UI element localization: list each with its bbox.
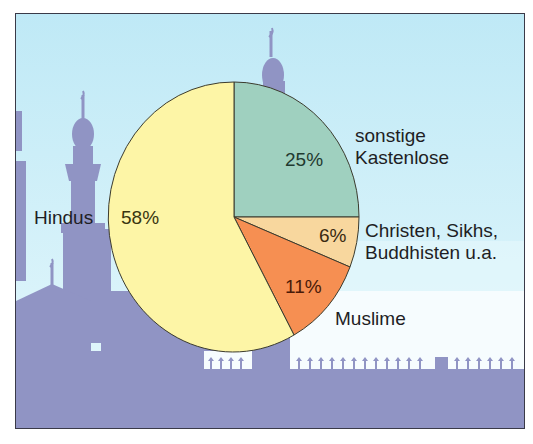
pct-label-christen: 6% [319,225,346,247]
label-sonstige-line2: Kastenlose [355,147,449,169]
label-christen-line1: Christen, Sikhs, [365,220,498,242]
label-sonstige-kastenlose: sonstige Kastenlose [355,125,449,169]
label-sonstige-line1: sonstige [355,125,449,147]
label-christen-sikhs-buddhisten: Christen, Sikhs, Buddhisten u.a. [365,220,498,264]
label-hindus: Hindus [34,207,93,229]
pct-label-muslime: 11% [285,276,322,298]
chart-frame: 25% 6% 11% 58% sonstige Kastenlose Chris… [15,13,525,429]
pct-label-hindus: 58% [121,207,159,229]
label-christen-line2: Buddhisten u.a. [365,242,498,264]
label-muslime: Muslime [335,308,406,330]
pct-label-sonstige: 25% [285,149,323,171]
